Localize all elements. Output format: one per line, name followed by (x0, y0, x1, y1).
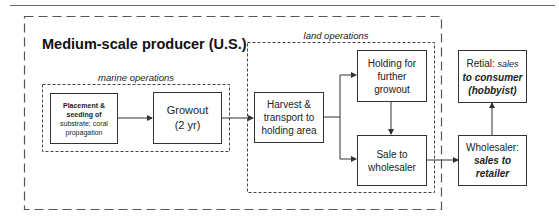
node-retail-line-1: Retial: sales (462, 57, 522, 71)
node-wholesaler-line: retailer (466, 167, 519, 180)
node-holding-line: growout (368, 83, 416, 96)
node-retail-line: (hobbyist) (462, 84, 522, 97)
node-placement-line: propagation (60, 128, 108, 137)
node-wholesaler-label: Wholesaler: (466, 141, 519, 154)
node-growout: Growout (2 yr) (153, 92, 222, 144)
edge-harvest-sale (340, 117, 356, 159)
node-placement: Placement & seeding of substrate; coral … (50, 93, 118, 144)
node-sale-line: wholesaler (368, 161, 416, 174)
node-holding-line: further (368, 70, 416, 83)
node-placement-line: substrate; coral (60, 119, 108, 128)
node-harvest-line: Harvest & (261, 98, 316, 111)
edge-harvest-holding (323, 75, 356, 117)
node-wholesaler-line: sales to (466, 154, 519, 167)
node-growout-line: (2 yr) (167, 118, 209, 133)
node-holding-line: Holding for (368, 57, 416, 70)
node-growout-line: Growout (167, 103, 209, 118)
node-holding: Holding for further growout (357, 50, 427, 102)
node-retail-line: to consumer (462, 71, 522, 84)
node-harvest-line: holding area (261, 124, 316, 137)
node-sale: Sale to wholesaler (357, 135, 427, 186)
node-retail-label-italic: sales (498, 59, 519, 69)
node-placement-line: seeding of (60, 110, 108, 119)
node-wholesaler: Wholesaler: sales to retailer (458, 135, 527, 186)
node-retail-label: Retial: (466, 58, 494, 69)
node-placement-line: Placement & (60, 101, 108, 110)
marine-operations-label: marine operations (86, 72, 186, 83)
land-operations-label: land operations (286, 30, 386, 41)
node-retail: Retial: sales to consumer (hobbyist) (458, 50, 527, 103)
node-harvest-line: transport to (261, 111, 316, 124)
node-sale-line: Sale to (368, 148, 416, 161)
diagram-title: Medium-scale producer (U.S.) (42, 36, 247, 52)
node-harvest: Harvest & transport to holding area (254, 92, 324, 143)
